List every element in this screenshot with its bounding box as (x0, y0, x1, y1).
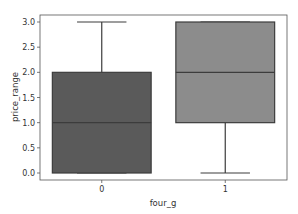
box-group-0 (52, 22, 151, 173)
x-axis-ticks: 01 (99, 180, 228, 194)
y-tick-label: 1.5 (22, 94, 35, 103)
y-tick-label: 0.0 (22, 169, 35, 178)
box-group-1 (176, 22, 275, 173)
plot-area (52, 22, 274, 173)
box-plot-chart: 0.00.51.01.52.02.53.0 01 four_g price_ra… (0, 0, 298, 214)
y-axis-label: price_range (10, 72, 20, 122)
x-axis-label: four_g (150, 198, 177, 208)
y-tick-label: 1.0 (22, 119, 35, 128)
x-tick-label: 1 (223, 185, 228, 194)
y-tick-label: 0.5 (22, 144, 35, 153)
y-axis-ticks: 0.00.51.01.52.02.53.0 (22, 18, 40, 178)
y-tick-label: 2.5 (22, 43, 35, 52)
y-tick-label: 2.0 (22, 68, 35, 77)
y-tick-label: 3.0 (22, 18, 35, 27)
x-tick-label: 0 (99, 185, 104, 194)
